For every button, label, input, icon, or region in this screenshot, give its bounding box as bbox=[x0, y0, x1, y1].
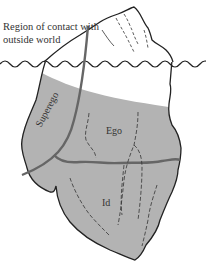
id-label: Id bbox=[102, 198, 110, 208]
ego-label: Ego bbox=[106, 126, 122, 136]
contact-region-label: Region of contact with outside world bbox=[3, 20, 103, 46]
